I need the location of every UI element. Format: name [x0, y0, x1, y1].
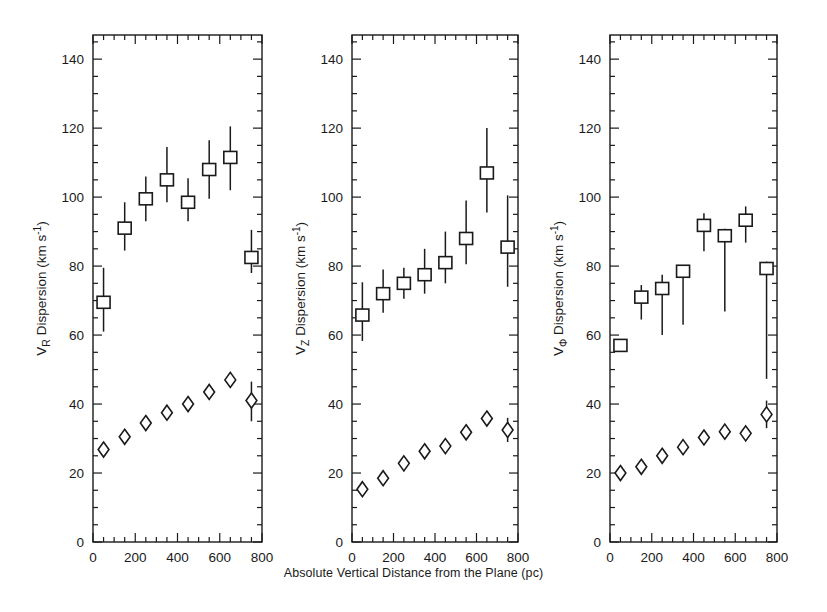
data-point — [183, 397, 194, 412]
square-marker — [397, 277, 410, 289]
data-point — [378, 471, 389, 486]
y-tick-label: 140 — [320, 52, 343, 67]
data-point — [677, 265, 690, 324]
square-marker — [460, 232, 473, 244]
series-thin-disk-dispersion — [357, 411, 513, 497]
x-tick-label: 600 — [208, 550, 231, 565]
panel-1: 0200400600800020406080100120140VR Disper… — [32, 35, 273, 565]
y-tick-label: 100 — [320, 190, 343, 205]
diamond-marker — [183, 397, 194, 412]
y-tick-label: 140 — [61, 52, 84, 67]
square-marker — [377, 288, 390, 300]
square-marker — [160, 174, 173, 186]
series-thick-disk-dispersion — [356, 128, 514, 341]
data-point — [419, 444, 430, 459]
data-point — [139, 176, 152, 221]
data-point — [140, 416, 151, 431]
data-point — [480, 128, 493, 213]
data-point — [460, 201, 473, 265]
x-tick-label: 400 — [424, 550, 447, 565]
data-point — [636, 459, 647, 474]
diamond-marker — [140, 416, 151, 431]
square-marker — [760, 262, 773, 274]
data-point — [697, 213, 710, 251]
data-point — [418, 249, 431, 294]
y-tick-label: 80 — [328, 259, 343, 274]
square-marker — [182, 196, 195, 208]
x-tick-label: 0 — [348, 550, 356, 565]
data-point — [98, 442, 109, 457]
data-point — [160, 147, 173, 202]
square-marker — [697, 219, 710, 231]
square-marker — [501, 241, 514, 253]
data-point — [440, 439, 451, 454]
square-marker — [480, 167, 493, 179]
data-point — [225, 372, 236, 387]
svg-text:VΦ Dispersion (km s-1): VΦ Dispersion (km s-1) — [549, 221, 569, 356]
square-marker — [418, 269, 431, 281]
diamond-marker — [481, 411, 492, 426]
square-marker — [97, 296, 110, 308]
data-point — [481, 411, 492, 426]
data-point — [502, 418, 513, 442]
y-tick-label: 20 — [69, 466, 84, 481]
data-point — [162, 405, 173, 420]
square-marker — [614, 339, 627, 351]
x-tick-label: 0 — [89, 550, 97, 565]
data-point — [461, 425, 472, 440]
x-tick-label: 200 — [124, 550, 147, 565]
data-point — [204, 384, 215, 399]
series-thick-disk-dispersion — [614, 206, 773, 378]
square-marker — [356, 309, 369, 321]
y-tick-label: 20 — [328, 466, 343, 481]
x-tick-label: 200 — [640, 550, 663, 565]
x-tick-label: 800 — [251, 550, 274, 565]
data-point — [224, 126, 237, 190]
data-point — [246, 382, 257, 422]
y-axis-ticks: 020406080100120140 — [320, 42, 518, 550]
data-point — [356, 282, 369, 341]
diamond-marker — [98, 442, 109, 457]
diamond-marker — [357, 482, 368, 497]
diamond-marker — [419, 444, 430, 459]
diamond-marker — [162, 405, 173, 420]
square-marker — [677, 265, 690, 277]
plot-canvas: 0200400600800020406080100120140VR Disper… — [0, 0, 827, 612]
diamond-marker — [398, 456, 409, 471]
y-tick-label: 40 — [328, 397, 343, 412]
y-tick-label: 40 — [586, 397, 601, 412]
x-tick-label: 400 — [682, 550, 705, 565]
data-point — [656, 275, 669, 335]
y-tick-label: 20 — [586, 466, 601, 481]
y-tick-label: 120 — [320, 121, 343, 136]
data-point — [377, 270, 390, 313]
series-thick-disk-dispersion — [97, 126, 258, 331]
y-axis-ticks: 020406080100120140 — [578, 42, 777, 550]
x-tick-label: 400 — [166, 550, 189, 565]
y-tick-label: 60 — [328, 328, 343, 343]
svg-text:VZ Dispersion (km s-1): VZ Dispersion (km s-1) — [291, 222, 311, 355]
diamond-marker — [657, 448, 668, 463]
square-marker — [656, 283, 669, 295]
diamond-marker — [719, 424, 730, 439]
data-point — [699, 430, 710, 445]
y-tick-label: 40 — [69, 397, 84, 412]
y-tick-label: 140 — [578, 52, 601, 67]
data-point — [635, 285, 648, 319]
y-axis-label: VZ Dispersion (km s-1) — [291, 222, 311, 355]
diamond-marker — [678, 440, 689, 455]
y-tick-label: 80 — [586, 259, 601, 274]
data-point — [398, 456, 409, 471]
diamond-marker — [119, 429, 130, 444]
y-tick-label: 0 — [76, 535, 84, 550]
diamond-marker — [761, 407, 772, 422]
y-axis-ticks: 020406080100120140 — [61, 42, 262, 550]
panel-2: 0200400600800020406080100120140VZ Disper… — [291, 35, 529, 565]
y-tick-label: 60 — [69, 328, 84, 343]
data-point — [740, 426, 751, 441]
y-tick-label: 0 — [593, 535, 601, 550]
data-point — [182, 178, 195, 221]
data-point — [118, 202, 131, 250]
square-marker — [224, 151, 237, 163]
data-point — [439, 232, 452, 284]
